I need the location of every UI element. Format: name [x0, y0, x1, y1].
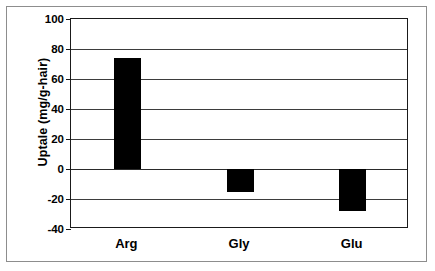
- y-tick-label: 0: [58, 163, 64, 175]
- y-tick-label: -20: [47, 193, 64, 205]
- y-tick-mark: [66, 79, 71, 80]
- y-tick-label: 40: [51, 103, 64, 115]
- y-tick-label: 20: [51, 133, 64, 145]
- y-tick-mark: [66, 109, 71, 110]
- y-tick-mark: [66, 49, 71, 50]
- bar-arg: [114, 58, 141, 169]
- gridline: [71, 49, 407, 50]
- y-tick-label: 60: [51, 73, 64, 85]
- y-axis-title: Uptale (mg/g-hair): [36, 7, 50, 217]
- bar-chart-figure: Uptale (mg/g-hair) 100806040200-20-40 Ar…: [0, 0, 435, 271]
- y-tick-mark: [66, 139, 71, 140]
- y-tick-mark: [66, 199, 71, 200]
- x-axis-label-gly: Gly: [199, 236, 279, 251]
- x-axis-label-glu: Glu: [312, 236, 392, 251]
- plot-inner: 100806040200-20-40: [71, 19, 407, 227]
- bar-glu: [339, 169, 366, 211]
- y-tick-label: 100: [45, 13, 64, 25]
- y-tick-label: 80: [51, 43, 64, 55]
- x-axis-label-arg: Arg: [86, 236, 166, 251]
- y-tick-mark: [66, 19, 71, 20]
- bar-gly: [227, 169, 254, 192]
- y-tick-mark: [66, 229, 71, 230]
- y-tick-mark: [66, 169, 71, 170]
- plot-area: 100806040200-20-40: [70, 18, 408, 228]
- y-tick-label: -40: [47, 223, 64, 235]
